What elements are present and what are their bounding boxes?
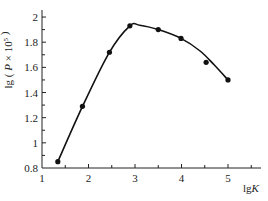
axes — [42, 10, 261, 168]
data-point — [55, 159, 60, 164]
data-points — [55, 23, 230, 164]
y-tick-label: 1.8 — [24, 36, 38, 48]
tick-labels: 123450.811.21.41.61.82 — [24, 11, 231, 184]
fitted-curve — [58, 23, 228, 161]
y-tick-label: 1 — [33, 137, 39, 149]
y-axis-title: lg ( P × 105 ) — [0, 31, 15, 88]
data-point — [156, 27, 161, 32]
chart: 123450.811.21.41.61.82 lgK lg ( P × 105 … — [0, 0, 268, 201]
data-point — [127, 23, 132, 28]
data-point — [80, 104, 85, 109]
x-axis-title: lgK — [243, 182, 260, 194]
x-tick-label: 2 — [86, 172, 92, 184]
x-tick-label: 3 — [132, 172, 138, 184]
ticks — [42, 17, 251, 168]
data-point — [107, 50, 112, 55]
x-tick-label: 1 — [39, 172, 45, 184]
y-tick-label: 1.2 — [24, 112, 38, 124]
y-tick-label: 2 — [33, 11, 39, 23]
x-tick-label: 4 — [179, 172, 185, 184]
y-tick-label: 0.8 — [24, 162, 38, 174]
data-point — [204, 60, 209, 65]
y-tick-label: 1.6 — [24, 61, 38, 73]
y-tick-label: 1.4 — [24, 87, 38, 99]
x-tick-label: 5 — [225, 172, 231, 184]
data-point — [178, 36, 183, 41]
data-point — [225, 77, 230, 82]
